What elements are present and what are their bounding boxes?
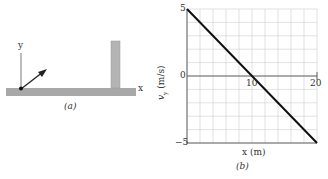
x-axis-title: x (m) (242, 147, 266, 157)
y-axis-title: vy (m/s) (156, 65, 168, 100)
y-tick-neg5: −5 (175, 137, 188, 147)
caption-b: (b) (236, 161, 249, 171)
y-tick-0: 0 (180, 70, 186, 80)
x-tick-10-label: 10 (246, 78, 257, 88)
x-tick-20-label: 20 (310, 78, 321, 88)
y-tick-5: 5 (180, 3, 186, 13)
